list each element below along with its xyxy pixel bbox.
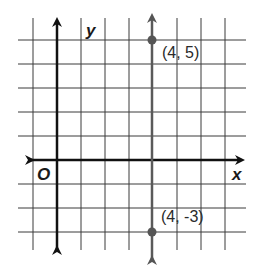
coordinate-plane: y x O (4, 5) (4, -3) [0,0,263,280]
point-label-4-5: (4, 5) [162,44,199,61]
x-axis-label: x [231,165,243,184]
y-axis-label: y [85,21,97,40]
point-4-neg3 [148,228,157,237]
origin-label: O [37,165,50,184]
grid [18,18,246,250]
point-4-5 [148,36,157,45]
point-label-4-neg3: (4, -3) [161,208,204,225]
